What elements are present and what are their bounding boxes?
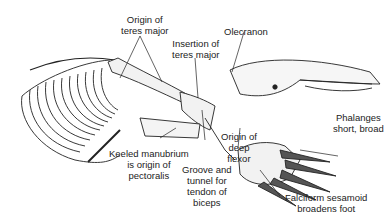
label-origin-teres-major: Origin of teres major bbox=[121, 14, 169, 36]
label-insertion-teres-major: Insertion of teres major bbox=[172, 38, 220, 60]
label-keeled-manubrium: Keeled manubrium is origin of pectoralis bbox=[109, 148, 189, 181]
label-falciform: Falciform sesamoid broadens foot bbox=[285, 192, 367, 214]
ribcage bbox=[22, 60, 120, 162]
label-groove-tunnel: Groove and tunnel for tendon of biceps bbox=[182, 164, 232, 208]
label-olecranon: Olecranon bbox=[224, 26, 268, 37]
label-phalanges: Phalanges short, broad bbox=[333, 112, 384, 134]
label-origin-deep-flexor: Origin of deep flexor bbox=[221, 131, 257, 164]
